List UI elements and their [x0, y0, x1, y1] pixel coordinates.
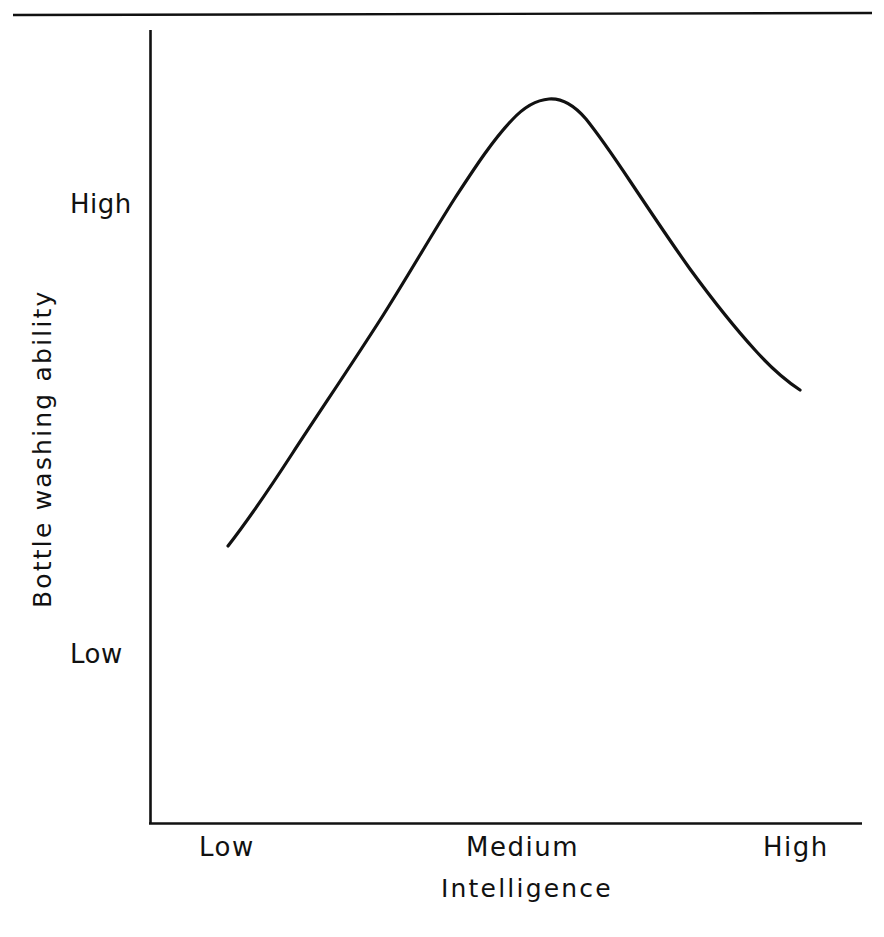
chart-figure: High Low Low Medium High Intelligence Bo…: [0, 0, 884, 937]
y-axis-title: Bottle washing ability: [30, 289, 55, 608]
y-tick-label-low: Low: [70, 641, 123, 667]
x-tick-label-low: Low: [199, 834, 255, 860]
x-tick-label-medium: Medium: [466, 834, 579, 860]
plot-canvas: [0, 0, 884, 937]
y-tick-label-high: High: [70, 191, 132, 217]
data-curve-bottle-washing-ability: [228, 99, 800, 546]
x-tick-label-high: High: [763, 834, 829, 860]
x-axis-title: Intelligence: [441, 876, 613, 901]
top-rule: [13, 13, 872, 15]
